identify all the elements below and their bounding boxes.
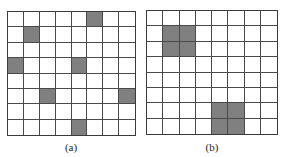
grid-cell	[87, 120, 103, 135]
grid-cell	[147, 57, 163, 72]
grid-cell	[196, 88, 212, 103]
grid-cell	[40, 43, 56, 58]
grid-cell	[245, 88, 261, 103]
grid-cell	[8, 43, 24, 58]
grid-cell	[261, 119, 277, 134]
grid-cell	[40, 12, 56, 27]
grid-cell	[212, 11, 228, 26]
grid-cell	[40, 27, 56, 42]
grid-cell	[212, 26, 228, 41]
grid-cell	[180, 57, 196, 72]
grid-cell	[103, 12, 119, 27]
grid-cell	[196, 42, 212, 57]
grid-cell	[196, 11, 212, 26]
grid-cell-filled	[72, 120, 88, 135]
grid-cell	[87, 104, 103, 119]
grid-cell	[228, 73, 244, 88]
grid-cell-filled	[212, 119, 228, 134]
caption-panel-a: (a)	[51, 141, 91, 153]
grid-cell	[196, 26, 212, 41]
grid-cell	[24, 12, 40, 27]
grid-cell	[261, 42, 277, 57]
grid-cell	[72, 12, 88, 27]
grid-cell	[8, 74, 24, 89]
grid-cell	[147, 119, 163, 134]
grid-cell	[103, 74, 119, 89]
grid-cell	[147, 88, 163, 103]
grid-cell	[163, 103, 179, 118]
grid-cell-filled	[228, 119, 244, 134]
grid-cell	[24, 120, 40, 135]
grid-cell	[228, 88, 244, 103]
grid-cell	[72, 74, 88, 89]
grid-cell	[56, 58, 72, 73]
grid-cell	[40, 74, 56, 89]
grid-cell	[196, 119, 212, 134]
grid-cell	[228, 42, 244, 57]
grid-cell	[180, 73, 196, 88]
grid-cell	[103, 43, 119, 58]
grid-panel-a	[7, 11, 136, 136]
grid-cell	[24, 89, 40, 104]
grid-cell	[147, 42, 163, 57]
grid-cell	[196, 57, 212, 72]
grid-cell	[228, 26, 244, 41]
grid-cell-filled	[8, 58, 24, 73]
grid-cell	[119, 74, 135, 89]
grid-cell	[103, 104, 119, 119]
grid-cell-filled	[119, 89, 135, 104]
grid-cell	[72, 43, 88, 58]
grid-cell	[72, 89, 88, 104]
grid-cell	[24, 74, 40, 89]
grid-cell-filled	[87, 12, 103, 27]
grid-cell	[180, 103, 196, 118]
grid-cell	[87, 27, 103, 42]
grid-cell	[180, 11, 196, 26]
grid-cell	[212, 73, 228, 88]
grid-cell	[56, 104, 72, 119]
grid-cell-filled	[163, 42, 179, 57]
grid-cell	[196, 103, 212, 118]
grid-cell	[180, 119, 196, 134]
grid-cell	[119, 43, 135, 58]
grid-panel-b	[146, 10, 278, 135]
grid-cell	[56, 89, 72, 104]
grid-cell	[163, 11, 179, 26]
grid-cell	[261, 11, 277, 26]
grid-cell-filled	[228, 103, 244, 118]
grid-cell	[119, 12, 135, 27]
grid-cell-filled	[212, 103, 228, 118]
grid-cell	[56, 12, 72, 27]
grid-cell	[261, 57, 277, 72]
grid-cell	[147, 73, 163, 88]
grid-cell	[56, 27, 72, 42]
grid-cell	[196, 73, 212, 88]
grid-cell-filled	[180, 26, 196, 41]
grid-cell	[103, 27, 119, 42]
grid-cell	[8, 27, 24, 42]
grid-cell	[261, 26, 277, 41]
grid-cell	[245, 11, 261, 26]
grid-cell	[8, 120, 24, 135]
grid-cell	[8, 104, 24, 119]
grid-cell	[8, 89, 24, 104]
grid-cell	[261, 73, 277, 88]
grid-cell-filled	[163, 26, 179, 41]
grid-cell	[147, 103, 163, 118]
grid-cell	[245, 103, 261, 118]
grid-cell	[56, 43, 72, 58]
grid-cell	[147, 26, 163, 41]
grid-cell	[40, 120, 56, 135]
grid-cell	[228, 57, 244, 72]
caption-panel-b: (b)	[192, 141, 232, 153]
grid-cell	[8, 12, 24, 27]
grid-cell	[261, 103, 277, 118]
grid-cell	[163, 57, 179, 72]
grid-cell	[103, 58, 119, 73]
grid-cell	[119, 27, 135, 42]
grid-cell	[72, 27, 88, 42]
grid-cell	[180, 88, 196, 103]
grid-cell	[228, 11, 244, 26]
grid-cell	[56, 74, 72, 89]
grid-cell	[212, 42, 228, 57]
